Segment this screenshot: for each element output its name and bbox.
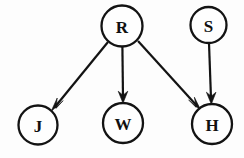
diagram-canvas: R S J W H — [0, 0, 244, 158]
node-r[interactable]: R — [102, 6, 143, 47]
edge-r-to-w-line — [122, 47, 123, 98]
node-h-label: H — [205, 116, 218, 135]
edge-r-to-j — [51, 42, 108, 112]
edge-group — [51, 41, 216, 112]
edge-s-to-h-line — [209, 43, 211, 99]
edge-r-to-h — [138, 41, 201, 111]
node-w-label: W — [115, 115, 132, 134]
node-s[interactable]: S — [191, 7, 227, 43]
node-j[interactable]: J — [19, 106, 58, 145]
node-w[interactable]: W — [103, 103, 143, 143]
edge-s-to-h — [206, 43, 216, 104]
edge-r-to-h-line — [138, 41, 198, 107]
edge-r-to-j-line — [55, 42, 109, 108]
edge-r-to-w — [118, 47, 128, 103]
directed-graph: R S J W H — [0, 0, 244, 158]
node-j-label: J — [34, 117, 43, 136]
node-s-label: S — [204, 17, 213, 36]
node-h[interactable]: H — [192, 104, 232, 144]
node-group: R S J W H — [19, 6, 233, 145]
node-r-label: R — [116, 18, 129, 37]
